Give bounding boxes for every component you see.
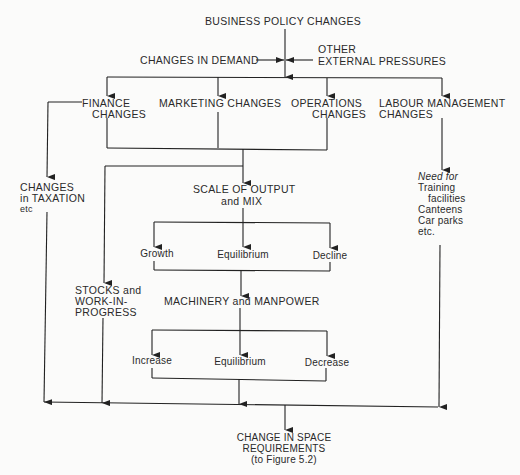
connector-lines (0, 0, 520, 475)
machinery-manpower: MACHINERY and MANPOWER (164, 295, 320, 307)
scale-outcome-growth: Growth (140, 248, 173, 260)
stocks-line3: PROGRESS (75, 306, 137, 318)
input-changes-in-demand: CHANGES IN DEMAND (140, 54, 259, 66)
machinery-outcome-increase: Increase (132, 355, 172, 367)
branch-finance-line2: CHANGES (92, 108, 146, 120)
input-other-line1: OTHER (318, 43, 356, 55)
scale-outcome-decline: Decline (313, 250, 348, 262)
machinery-outcome-equilibrium: Equilibrium (214, 356, 266, 368)
input-other-line2: EXTERNAL PRESSURES (318, 55, 446, 67)
title-business-policy-changes: BUSINESS POLICY CHANGES (205, 15, 361, 27)
scale-line2: and MIX (221, 195, 262, 207)
result-line3: (to Figure 5.2) (251, 454, 317, 466)
scale-line1: SCALE OF OUTPUT (193, 183, 296, 195)
scale-outcome-equilibrium: Equilibrium (217, 249, 269, 261)
taxation-line3: etc (20, 203, 33, 215)
branch-marketing: MARKETING CHANGES (159, 97, 281, 109)
labour-need-etc: etc. (418, 226, 435, 238)
machinery-outcome-decrease: Decrease (305, 357, 349, 369)
branch-labour-line2: CHANGES (379, 108, 433, 120)
branch-operations-line2: CHANGES (312, 108, 366, 120)
